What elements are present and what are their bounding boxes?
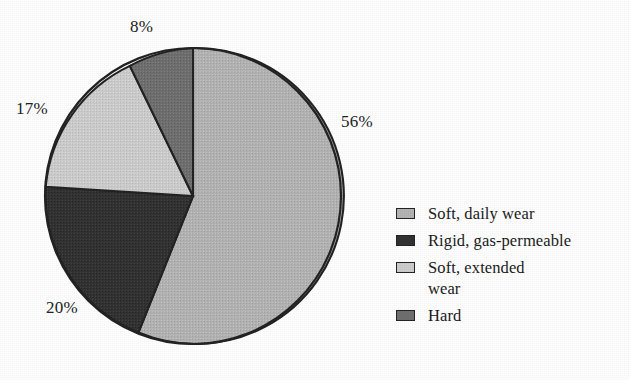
pie-svg — [0, 0, 390, 380]
legend-swatch-hard — [396, 310, 415, 321]
legend-swatch-rigid-gas-permeable — [396, 235, 415, 246]
pie-chart-graphic: 56% 20% 17% 8% — [0, 0, 390, 380]
pie-value-label-soft-daily-wear: 56% — [341, 112, 373, 132]
legend-label-line-2: wear — [428, 278, 525, 299]
pie-value-label-hard: 8% — [130, 17, 153, 37]
legend-label-hard: Hard — [428, 305, 461, 326]
legend-label-soft-daily-wear: Soft, daily wear — [428, 203, 535, 224]
legend-item-soft-daily-wear[interactable]: Soft, daily wear — [396, 203, 622, 224]
pie-value-label-rigid-gas-permeable: 20% — [46, 298, 78, 318]
legend-label-soft-extended-wear: Soft, extended wear — [428, 257, 525, 299]
legend-swatch-soft-daily-wear — [396, 208, 415, 219]
legend-label-rigid-gas-permeable: Rigid, gas-permeable — [428, 230, 571, 251]
legend-label-line-1: Soft, extended — [428, 258, 525, 277]
pie-value-label-soft-extended-wear: 17% — [16, 99, 48, 119]
chart-legend: Soft, daily wear Rigid, gas-permeable So… — [396, 203, 622, 326]
legend-item-soft-extended-wear[interactable]: Soft, extended wear — [396, 257, 622, 299]
pie-chart-figure: 56% 20% 17% 8% Soft, daily wear Rigid, g… — [0, 0, 630, 380]
legend-swatch-soft-extended-wear — [396, 262, 415, 273]
legend-item-rigid-gas-permeable[interactable]: Rigid, gas-permeable — [396, 230, 622, 251]
legend-item-hard[interactable]: Hard — [396, 305, 622, 326]
